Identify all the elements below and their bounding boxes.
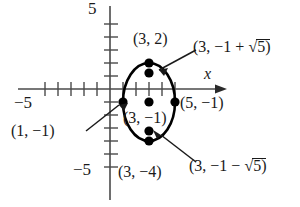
sqrt-icon-upper: √5) [248,38,270,55]
point-upper-focus [144,68,153,77]
label-upper-focus: (3, −1 + √5) [193,38,270,55]
sqrt-glyph-lower: √ [244,157,253,174]
label-right-vertex: (5, −1) [180,95,224,111]
x-axis-name-label: x [204,66,211,82]
y-axis [104,6,118,200]
label-center: (3, −1) [123,110,167,126]
point-top-vertex [144,58,153,67]
label-upper-focus-radicand: 5) [257,38,270,55]
plot-points [118,58,179,145]
label-lower-focus-text: (3, −1 − [189,157,244,174]
point-center [144,97,153,106]
radical-bar-upper [256,39,270,40]
sqrt-icon-lower: √5) [244,157,266,174]
x-axis-left-label: −5 [14,94,32,111]
label-lower-focus: (3, −1 − √5) [189,157,266,174]
point-lower-focus [144,126,153,135]
leader-upper-focus [159,50,196,70]
y-axis-top-label: 5 [88,0,97,17]
label-left-vertex: (1, −1) [11,123,55,139]
leader-left-vertex [86,105,119,131]
point-right-vertex [170,97,179,106]
label-lower-focus-radicand: 5) [253,157,266,174]
label-bottom-vertex: (3, −4) [118,164,162,180]
y-axis-bottom-label: −5 [73,161,91,178]
radical-bar-lower [252,158,266,159]
coordinate-plane-figure: 5 −5 −5 x (3, 2) (3, −1) (1, −1) (5, −1)… [0,0,300,207]
label-upper-focus-text: (3, −1 + [193,38,248,55]
point-bottom-vertex [144,136,153,145]
leader-arrowheads [119,68,168,139]
sqrt-glyph-upper: √ [248,38,257,55]
label-top-vertex: (3, 2) [133,31,168,47]
